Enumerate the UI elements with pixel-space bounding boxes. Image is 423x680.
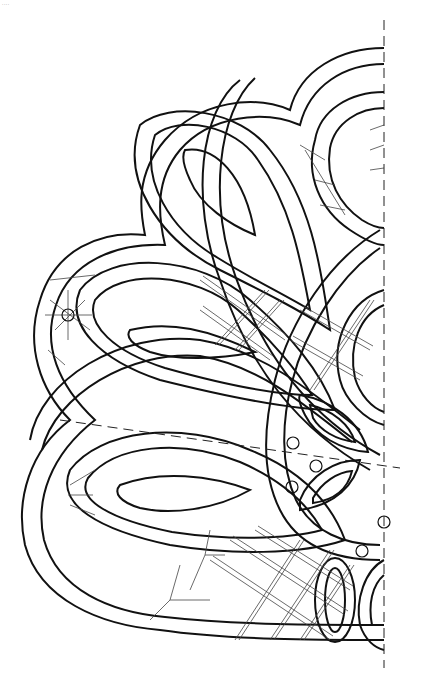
pin-circle (310, 460, 322, 472)
right-pin-marker-icon (399, 463, 407, 477)
outer-scallops (22, 48, 384, 640)
pin-circle (356, 545, 368, 557)
pin-circle (287, 437, 299, 449)
lace-pattern-diagram (0, 0, 423, 680)
